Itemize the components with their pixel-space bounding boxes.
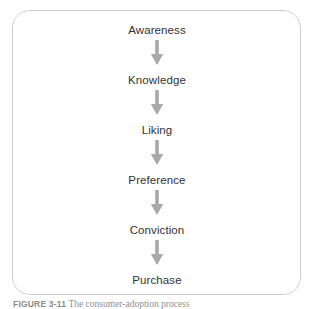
- stage-label-awareness: Awareness: [128, 23, 186, 37]
- stage-label-conviction: Conviction: [130, 223, 185, 237]
- figure-caption-number: FIGURE 3-11: [13, 299, 66, 309]
- arrow-down-icon: [149, 240, 165, 270]
- arrow-down-icon: [149, 190, 165, 220]
- figure-caption: FIGURE 3-11 The consumer-adoption proces…: [13, 299, 313, 309]
- arrow-down-icon: [149, 90, 165, 120]
- stage-label-purchase: Purchase: [132, 273, 181, 287]
- stage-label-knowledge: Knowledge: [128, 73, 186, 87]
- figure-panel: Awareness Knowledge Liking Preference: [12, 10, 301, 295]
- arrow-down-icon: [149, 40, 165, 70]
- funnel-flow-diagram: Awareness Knowledge Liking Preference: [13, 11, 300, 294]
- figure-root: Awareness Knowledge Liking Preference: [0, 0, 317, 309]
- arrow-down-icon: [149, 140, 165, 170]
- stage-label-liking: Liking: [142, 123, 173, 137]
- figure-caption-text: The consumer-adoption process: [68, 299, 189, 309]
- stage-label-preference: Preference: [128, 173, 185, 187]
